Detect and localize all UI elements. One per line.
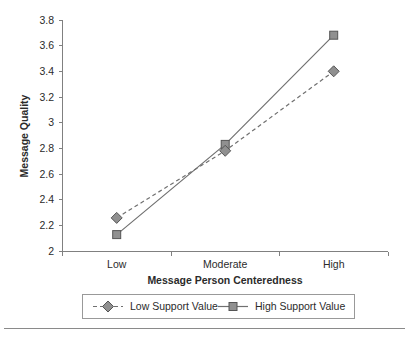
legend-marker-square [229,303,237,311]
series-high-support-value [113,31,338,238]
data-point-marker-square [330,31,338,39]
line-chart: 2 2.2 2.4 2.6 2.8 3 3.2 3.4 3.6 3.8 Mess… [0,0,409,337]
y-tick-label: 2.6 [39,168,54,180]
y-axis: 2 2.2 2.4 2.6 2.8 3 3.2 3.4 3.6 3.8 Mess… [18,14,63,257]
x-category-label: High [323,258,345,270]
y-tick-label: 3.2 [39,91,54,103]
legend-marker-diamond [103,301,114,312]
series-low-support-value [111,66,339,224]
y-tick-label: 3.6 [39,39,54,51]
chart-figure: 2 2.2 2.4 2.6 2.8 3 3.2 3.4 3.6 3.8 Mess… [0,0,409,337]
data-point-marker-square [113,231,121,239]
legend-item-high-support-value[interactable]: High Support Value [218,300,345,312]
y-tick-label: 3.4 [39,65,54,77]
y-tick-label: 3 [48,116,54,128]
x-axis: Low Moderate High Message Person Centere… [63,252,389,287]
y-tick-label: 2 [48,245,54,257]
series-line-high-support-value [117,35,334,234]
x-axis-title: Message Person Centeredness [147,274,302,286]
y-axis-title: Message Quality [18,94,30,177]
legend-label: High Support Value [255,300,345,312]
y-tick-label: 2.4 [39,193,54,205]
y-tick-label: 3.8 [39,14,54,26]
chart-legend: Low Support Value High Support Value [83,295,355,319]
x-category-label: Low [107,258,127,270]
data-point-marker-diamond [328,66,339,77]
x-category-label: Moderate [203,258,248,270]
legend-item-low-support-value[interactable]: Low Support Value [93,300,218,312]
legend-label: Low Support Value [130,300,218,312]
y-tick-label: 2.2 [39,219,54,231]
y-tick-label: 2.8 [39,142,54,154]
data-point-marker-diamond [111,212,122,223]
